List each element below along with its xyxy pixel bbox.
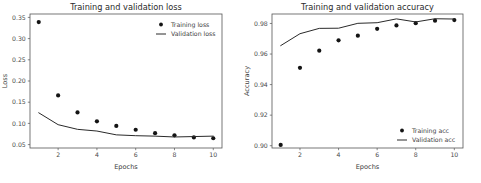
matplotlib-figure: 2468100.050.100.150.200.250.300.35Epochs… <box>0 0 481 183</box>
accuracy-chart-ylabel: Accuracy <box>243 66 251 96</box>
x-tick-label: 4 <box>95 151 99 158</box>
legend-label: Training loss <box>170 21 209 29</box>
x-tick-label: 8 <box>414 151 418 158</box>
x-tick-label: 6 <box>375 151 379 158</box>
x-tick-label: 6 <box>134 151 138 158</box>
accuracy-chart-canvas: 2468100.900.920.940.960.98EpochsAccuracy… <box>240 0 481 183</box>
y-tick-label: 0.92 <box>254 111 268 118</box>
accuracy-chart-title: Training and validation accuracy <box>300 2 434 12</box>
series-dot-training-loss <box>95 119 99 123</box>
loss-chart-xlabel: Epochs <box>114 163 138 171</box>
y-tick-label: 0.35 <box>12 14 26 21</box>
loss-chart-ylabel: Loss <box>1 73 9 88</box>
y-tick-label: 0.90 <box>254 142 268 149</box>
series-dot-training-acc <box>336 38 340 42</box>
series-dot-training-acc <box>279 143 283 147</box>
y-tick-label: 0.96 <box>254 50 268 57</box>
x-tick-label: 4 <box>337 151 341 158</box>
series-dot-training-loss <box>37 20 41 24</box>
y-tick-label: 0.98 <box>254 20 268 27</box>
series-dot-training-loss <box>211 136 215 140</box>
x-tick-label: 8 <box>173 151 177 158</box>
y-tick-label: 0.94 <box>254 81 268 88</box>
legend-marker-dot <box>400 129 404 133</box>
series-dot-training-loss <box>153 131 157 135</box>
x-tick-label: 2 <box>56 151 60 158</box>
series-dot-training-loss <box>114 124 118 128</box>
series-dot-training-loss <box>134 128 138 132</box>
legend-label: Validation loss <box>171 30 215 37</box>
y-tick-label: 0.25 <box>12 56 26 63</box>
series-dot-training-acc <box>317 49 321 53</box>
y-tick-label: 0.20 <box>12 77 26 84</box>
legend-label: Validation acc <box>412 136 456 143</box>
x-tick-label: 2 <box>298 151 302 158</box>
accuracy-chart-legend: Training accValidation acc <box>393 124 459 144</box>
series-line-validation-loss <box>39 113 214 137</box>
series-line-validation-acc <box>281 19 455 46</box>
legend-label: Training acc <box>411 127 450 135</box>
series-dot-training-acc <box>298 66 302 70</box>
y-tick-label: 0.15 <box>12 98 26 105</box>
y-tick-label: 0.30 <box>12 35 26 42</box>
loss-chart-canvas: 2468100.050.100.150.200.250.300.35Epochs… <box>0 0 240 183</box>
series-dot-training-acc <box>375 27 379 31</box>
loss-chart-title: Training and validation loss <box>69 2 182 12</box>
x-tick-label: 10 <box>450 151 458 158</box>
y-tick-label: 0.10 <box>12 120 26 127</box>
x-tick-label: 10 <box>209 151 217 158</box>
series-dot-training-loss <box>56 93 60 97</box>
y-tick-label: 0.05 <box>12 141 26 148</box>
accuracy-chart-xlabel: Epochs <box>356 163 380 171</box>
legend-marker-dot <box>159 23 163 27</box>
series-dot-training-acc <box>394 23 398 27</box>
series-dot-training-loss <box>75 110 79 114</box>
series-dot-training-acc <box>356 34 360 38</box>
loss-chart-legend: Training lossValidation loss <box>152 18 218 38</box>
series-dot-training-loss <box>192 135 196 139</box>
